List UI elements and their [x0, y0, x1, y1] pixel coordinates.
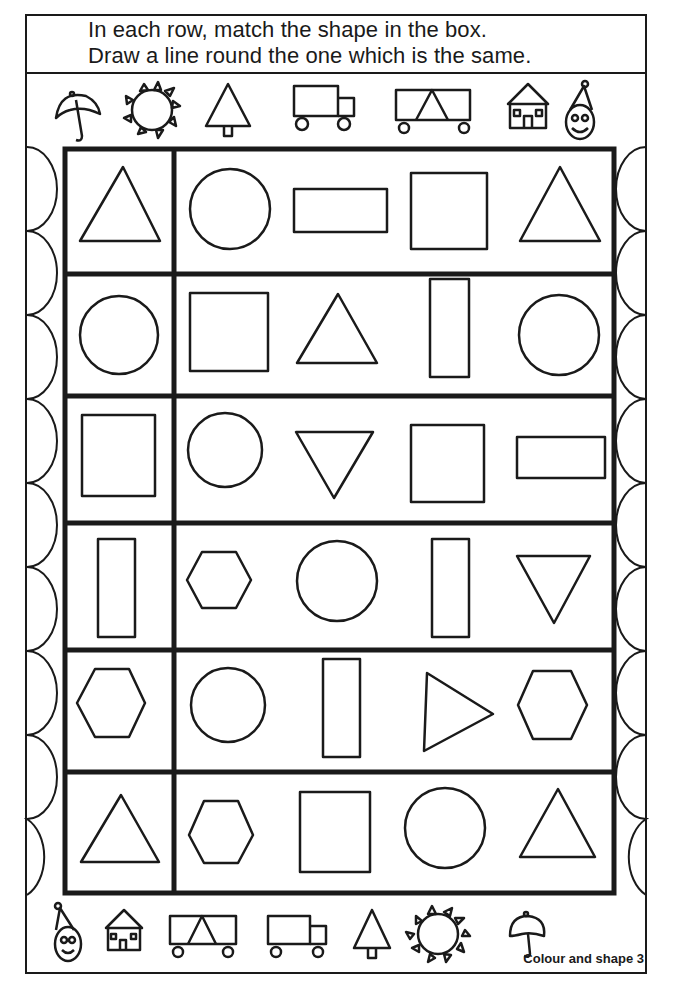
choice-circle[interactable]: [191, 668, 265, 742]
sun-icon: [124, 82, 180, 138]
choice-rectangle-tall[interactable]: [430, 279, 469, 377]
tent-wagon-icon: [396, 90, 470, 133]
choice-square[interactable]: [411, 425, 484, 502]
house-icon: [508, 84, 548, 128]
sun-icon: [406, 906, 470, 962]
choice-triangle[interactable]: [297, 294, 377, 363]
choice-hexagon[interactable]: [189, 801, 253, 863]
choice-hexagon[interactable]: [518, 671, 587, 739]
truck-icon: [294, 86, 354, 130]
choice-triangle-down[interactable]: [296, 432, 373, 498]
umbrella-icon: [510, 912, 544, 957]
choice-rectangle-tall[interactable]: [432, 539, 469, 637]
clown-icon: [566, 81, 594, 139]
choice-rectangle-tall[interactable]: [323, 659, 360, 757]
instruction-line-1: In each row, match the shape in the box.: [88, 17, 487, 43]
shape-matching-grid: [63, 147, 616, 895]
choice-triangle-down[interactable]: [517, 556, 590, 623]
target-hexagon: [77, 669, 145, 737]
choice-circle[interactable]: [405, 788, 485, 868]
umbrella-icon: [56, 92, 100, 141]
instructions-box: In each row, match the shape in the box.…: [25, 14, 647, 74]
choice-triangle[interactable]: [520, 789, 595, 857]
worksheet-footer-label: Colour and shape 3: [523, 951, 644, 966]
row-2: [80, 279, 599, 377]
row-5: [77, 659, 587, 757]
choice-hexagon[interactable]: [187, 552, 251, 608]
choice-circle[interactable]: [190, 169, 270, 249]
choice-triangle-right[interactable]: [424, 673, 493, 751]
row-3: [82, 413, 605, 502]
row-1: [80, 167, 600, 249]
choice-square[interactable]: [190, 293, 268, 371]
choice-square[interactable]: [411, 173, 487, 249]
choice-circle[interactable]: [519, 295, 599, 375]
choice-triangle[interactable]: [520, 167, 600, 241]
target-triangle: [81, 795, 159, 862]
bottom-icon-strip: [40, 900, 540, 980]
left-scallop-border: [27, 147, 67, 895]
choice-square[interactable]: [300, 792, 370, 872]
instruction-line-2: Draw a line round the one which is the s…: [88, 43, 531, 69]
tent-wagon-icon: [170, 916, 236, 957]
top-icon-strip: [40, 76, 640, 146]
clown-icon: [55, 903, 81, 961]
choice-circle[interactable]: [297, 541, 377, 621]
house-icon: [106, 910, 142, 950]
row-6: [81, 788, 595, 872]
tree-icon: [354, 910, 390, 958]
truck-icon: [268, 916, 326, 957]
target-rectangle-tall: [98, 539, 135, 637]
choice-rectangle-wide[interactable]: [517, 437, 605, 478]
choice-circle[interactable]: [188, 413, 262, 487]
choice-rectangle-wide[interactable]: [294, 189, 387, 232]
tree-icon: [206, 84, 250, 136]
target-triangle: [80, 167, 160, 241]
target-square: [82, 415, 155, 496]
target-circle: [80, 296, 158, 374]
